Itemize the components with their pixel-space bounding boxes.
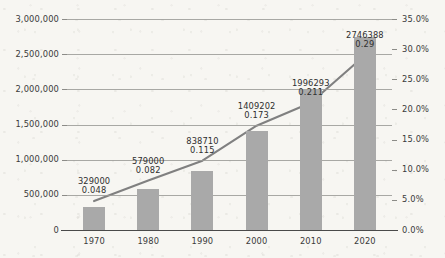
right-axis-tick-label: 10.0% [402,164,429,174]
line-value-label-2020: 0.29 [325,39,405,49]
axis-tick-mark [62,54,67,55]
gridline [67,54,392,55]
right-axis-tick-label: 30.0% [402,44,429,54]
line-value-label-1990: 0.115 [162,145,242,155]
gridline [67,125,392,126]
right-axis-tick-label: 0.0% [402,225,424,235]
axis-tick-mark [62,89,67,90]
axis-tick-mark [392,109,397,110]
x-axis-tick-label-1990: 1990 [176,236,228,246]
left-axis-tick-label: 3,000,000 [2,14,59,24]
left-axis-tick-label: 500,000 [2,189,59,199]
gridline [67,19,392,20]
line-value-label-2010: 0.211 [271,87,351,97]
left-axis-tick-label: 1,000,000 [2,154,59,164]
bar-2020[interactable] [354,37,376,230]
axis-tick-mark [392,140,397,141]
line-value-label-1980: 0.082 [108,165,188,175]
bar-2010[interactable] [300,90,322,230]
axis-tick-mark [62,160,67,161]
bar-1980[interactable] [137,189,159,230]
combo-chart: 0500,0001,000,0001,500,0002,000,0002,500… [0,0,445,258]
right-axis-tick-label: 15.0% [402,134,429,144]
left-axis-tick-label: 0 [2,225,59,235]
right-axis-tick-label: 35.0% [402,14,429,24]
x-axis-line [61,230,398,231]
x-axis-tick-label-2020: 2020 [339,236,391,246]
right-axis-tick-label: 25.0% [402,74,429,84]
left-axis-tick-label: 2,000,000 [2,84,59,94]
axis-tick-mark [392,49,397,50]
bar-1970[interactable] [83,207,105,230]
x-axis-tick-label-2010: 2010 [285,236,337,246]
right-axis-tick-label: 20.0% [402,104,429,114]
line-value-label-2000: 0.173 [217,110,297,120]
axis-tick-mark [392,19,397,20]
x-axis-tick-label-1970: 1970 [68,236,120,246]
axis-tick-mark [62,125,67,126]
bar-1990[interactable] [191,171,213,230]
right-axis-tick-label: 5.0% [402,194,424,204]
line-value-label-1970: 0.048 [54,185,134,195]
left-axis-tick-label: 1,500,000 [2,119,59,129]
left-axis-tick-label: 2,500,000 [2,49,59,59]
x-axis-tick-label-2000: 2000 [231,236,283,246]
axis-tick-mark [392,79,397,80]
axis-tick-mark [392,170,397,171]
x-axis-tick-label-1980: 1980 [122,236,174,246]
bar-2000[interactable] [246,131,268,230]
axis-tick-mark [392,200,397,201]
axis-tick-mark [62,19,67,20]
